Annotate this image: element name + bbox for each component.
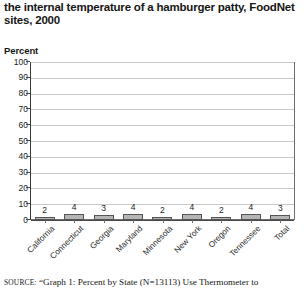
x-axis-label: Maryland (89, 224, 145, 280)
y-axis-tick-label: 80 (4, 89, 28, 98)
bar-value-label: 3 (101, 204, 106, 213)
y-axis-tick-label: 70 (4, 105, 28, 114)
y-axis-tick-label: 20 (4, 184, 28, 193)
bar-slot: 3 (89, 62, 118, 220)
bar-slot: 4 (118, 62, 147, 220)
bar-value-label: 4 (72, 203, 77, 212)
bar-value-label: 2 (160, 206, 165, 215)
x-axis-labels: CaliforniaConnecticutGeorgiaMarylandMinn… (30, 224, 295, 270)
page-title: the internal temperature of a hamburger … (0, 0, 308, 27)
bar-slot: 4 (59, 62, 88, 220)
x-axis-label: Minnesota (118, 224, 174, 280)
y-axis-tick-label: 10 (4, 200, 28, 209)
page-title-line-2: sites, 2000 (4, 14, 302, 27)
source-note: source: “Graph 1: Percent by State (N=13… (4, 277, 306, 289)
bar-slot: 4 (236, 62, 265, 220)
bar-value-label: 4 (248, 203, 253, 212)
y-axis-tick-label: 30 (4, 168, 28, 177)
x-axis-tickmark (280, 220, 281, 223)
x-axis-tickmark (45, 220, 46, 223)
bar-value-label: 4 (190, 203, 195, 212)
x-axis-label: New York (147, 224, 203, 280)
x-axis-label: Oregon (177, 224, 233, 280)
x-axis-label: Connecticut (30, 224, 86, 280)
x-axis-label: Tennessee (206, 224, 262, 280)
bar-value-label: 2 (42, 206, 47, 215)
y-axis-label: Percent (4, 45, 38, 56)
y-axis-tick-label: 50 (4, 137, 28, 146)
x-axis-tickmark (104, 220, 105, 223)
bar-value-label: 3 (278, 204, 283, 213)
y-axis-tick-label: 60 (4, 121, 28, 130)
bar-slot: 2 (148, 62, 177, 220)
source-text: “Graph 1: Percent by State (N=13113) Use… (39, 277, 259, 287)
x-axis-tickmark (74, 220, 75, 223)
bar-slot: 3 (266, 62, 295, 220)
bar-chart: 0102030405060708090100 243424243 Califor… (0, 58, 308, 270)
x-axis-tickmark (221, 220, 222, 223)
y-axis-tick-label: 0 (4, 216, 28, 225)
x-axis-label: Total (236, 224, 292, 280)
bar-value-label: 2 (219, 206, 224, 215)
y-axis-tick-label: 100 (4, 58, 28, 67)
x-axis-tickmark (163, 220, 164, 223)
bar-value-label: 4 (131, 203, 136, 212)
bar-slot: 2 (207, 62, 236, 220)
bar-slot: 2 (30, 62, 59, 220)
bar-slot: 4 (177, 62, 206, 220)
x-axis-tickmark (133, 220, 134, 223)
source-label: source: (4, 278, 37, 287)
page-title-line-1: the internal temperature of a hamburger … (4, 1, 302, 14)
bars-layer: 243424243 (30, 62, 295, 220)
y-axis-tick-label: 90 (4, 73, 28, 82)
x-axis-label: California (0, 224, 56, 280)
x-axis-tickmark (192, 220, 193, 223)
x-axis-tickmark (251, 220, 252, 223)
x-axis-label: Georgia (59, 224, 115, 280)
y-axis-tick-label: 40 (4, 152, 28, 161)
